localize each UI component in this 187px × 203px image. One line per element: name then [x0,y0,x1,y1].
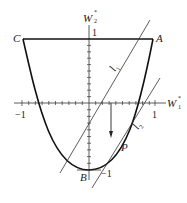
x-axis-label-sup: * [178,95,181,101]
line-l2-label: l 2 [130,120,145,133]
point-label-B: B [80,171,87,183]
x-tick-label-neg1: −1 [15,109,26,120]
y-axis-label-sup: * [94,9,97,15]
region-boundary-curve [23,39,153,170]
line-l1 [60,20,150,173]
x-axis-label-sub: 1 [178,104,181,110]
y-tick-label-neg1: −1 [101,168,112,179]
point-label-A: A [155,32,163,44]
diagram-canvas: C A B P W * 2 1 W * 1 −1 1 −1 l 1 l 2 [0,0,187,203]
y-tick-label-1: 1 [92,27,97,38]
x-tick-label-1: 1 [152,109,157,120]
x-axis-label: W [167,97,177,109]
y-axis-label: W [83,12,93,24]
point-label-C: C [13,32,21,44]
y-axis-label-sub: 2 [94,18,97,24]
arrow-head-icon [109,131,113,138]
point-label-P: P [120,141,128,153]
